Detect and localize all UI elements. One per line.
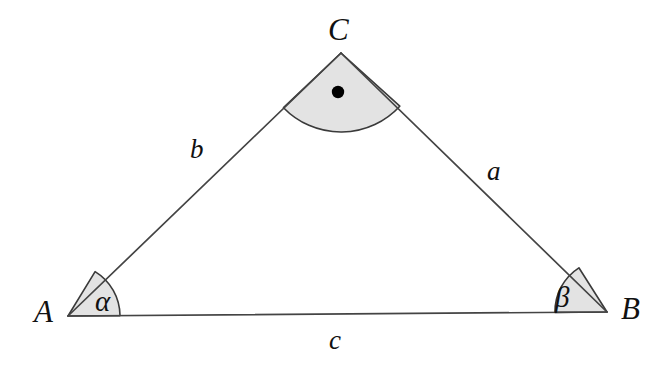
side-label-a: a xyxy=(487,158,501,185)
angle-label-alpha: α xyxy=(95,287,110,316)
triangle-side-b xyxy=(68,53,341,316)
geometry-figure: C A B b a c α β xyxy=(0,0,669,365)
vertex-label-A: A xyxy=(34,296,53,327)
right-angle-dot-marker xyxy=(332,86,344,98)
angle-label-beta: β xyxy=(555,283,569,312)
vertex-label-B: B xyxy=(621,293,640,324)
side-label-b: b xyxy=(190,136,204,163)
side-label-c: c xyxy=(329,327,341,354)
triangle-side-a xyxy=(341,53,607,312)
triangle-side-c xyxy=(68,312,607,316)
vertex-label-C: C xyxy=(328,14,349,45)
